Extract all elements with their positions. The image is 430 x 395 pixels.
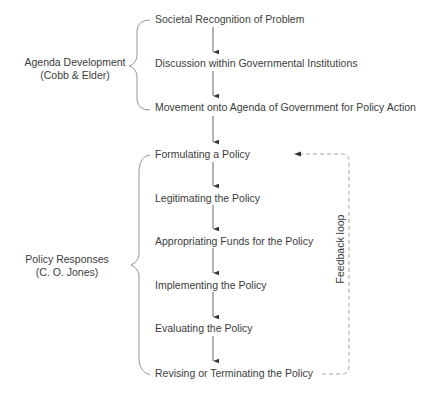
step-societal-recognition: Societal Recognition of Problem [155, 13, 304, 25]
step-implementing: Implementing the Policy [155, 279, 266, 291]
feedback-loop-label: Feedback loop [334, 204, 346, 294]
agenda-development-title: Agenda Development [0, 56, 150, 69]
agenda-development-label: Agenda Development (Cobb & Elder) [0, 56, 150, 82]
feedback-arrowhead [294, 152, 301, 157]
agenda-development-source: (Cobb & Elder) [0, 69, 150, 82]
policy-responses-source: (C. O. Jones) [0, 266, 142, 279]
step-evaluating: Evaluating the Policy [155, 322, 252, 334]
step-formulating: Formulating a Policy [155, 148, 250, 160]
policy-process-diagram: Agenda Development (Cobb & Elder) Policy… [0, 0, 430, 395]
step-appropriating-funds: Appropriating Funds for the Policy [155, 235, 313, 247]
step-movement-onto-agenda: Movement onto Agenda of Government for P… [155, 101, 416, 113]
step-revising-terminating: Revising or Terminating the Policy [155, 367, 313, 379]
policy-responses-title: Policy Responses [0, 253, 142, 266]
step-discussion: Discussion within Governmental Instituti… [155, 57, 358, 69]
step-legitimating: Legitimating the Policy [155, 192, 260, 204]
policy-responses-label: Policy Responses (C. O. Jones) [0, 253, 142, 279]
